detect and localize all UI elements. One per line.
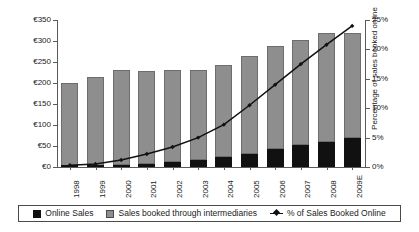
x-axis-line	[57, 167, 366, 168]
line-marker	[93, 162, 97, 166]
x-axis-tick-label: 2004	[227, 180, 235, 198]
x-axis-tick	[121, 167, 122, 170]
line-series-layer	[57, 20, 365, 167]
x-axis-tick	[173, 167, 174, 170]
y-axis-right-tick	[366, 49, 370, 50]
line-marker	[170, 145, 174, 149]
y-axis-left-tick-label: €150	[0, 100, 51, 108]
y-axis-right-tick	[366, 79, 370, 80]
y-axis-right-tick	[366, 167, 370, 168]
legend-label-percent-online: % of Sales Booked Online	[287, 209, 386, 218]
x-axis-tick-label: 2002	[176, 180, 184, 198]
x-axis-tick-label: 1999	[99, 180, 107, 198]
chart-legend: Online Sales Sales booked through interm…	[18, 205, 401, 222]
line-marker	[119, 158, 123, 162]
legend-item-intermediaries: Sales booked through intermediaries	[106, 209, 256, 218]
x-axis-tick	[352, 167, 353, 170]
x-axis-tick	[275, 167, 276, 170]
x-axis-labels: 1998199920002001200220032004200520062007…	[57, 170, 365, 200]
gray-square-swatch-icon	[106, 210, 114, 218]
legend-item-online-sales: Online Sales	[33, 209, 93, 218]
x-axis-tick	[147, 167, 148, 170]
x-axis-tick-label: 2000	[125, 180, 133, 198]
y-axis-right-tick	[366, 20, 370, 21]
x-axis-tick	[96, 167, 97, 170]
y-axis-left-tick-label: €300	[0, 37, 51, 45]
percent-online-line	[57, 20, 365, 167]
y-axis-right-tick	[366, 108, 370, 109]
x-axis-tick-label: 2003	[202, 180, 210, 198]
y-axis-right-tick	[366, 138, 370, 139]
x-axis-tick	[301, 167, 302, 170]
y-axis-right-tick-label: 15%	[372, 75, 388, 83]
line-marker-swatch-icon	[270, 209, 283, 218]
x-axis-tick	[224, 167, 225, 170]
y-axis-left-tick-label: €200	[0, 79, 51, 87]
x-axis-tick-label: 2006	[279, 180, 287, 198]
x-axis-tick-label: 2009E	[356, 175, 364, 198]
x-axis-tick-label: 2001	[150, 180, 158, 198]
line-path	[70, 26, 352, 165]
x-axis-tick	[250, 167, 251, 170]
y-axis-right-tick-label: 25%	[372, 16, 388, 24]
y-axis-left-tick-label: €250	[0, 58, 51, 66]
y-axis-left-tick-label: €350	[0, 16, 51, 24]
x-axis-tick-label: 2005	[253, 180, 261, 198]
y-axis-left-tick-label: €0	[0, 163, 51, 171]
y-axis-right-tick-label: 20%	[372, 45, 388, 53]
x-axis-tick	[327, 167, 328, 170]
x-axis-tick-label: 1998	[73, 180, 81, 198]
black-square-swatch-icon	[33, 210, 41, 218]
legend-label-online-sales: Online Sales	[45, 209, 93, 218]
y-axis-left-tick	[53, 167, 57, 168]
x-axis-tick-label: 2008	[330, 180, 338, 198]
y-axis-right-line	[365, 20, 366, 168]
y-axis-left-tick-label: €100	[0, 121, 51, 129]
x-axis-tick-label: 2007	[304, 180, 312, 198]
x-axis-tick	[198, 167, 199, 170]
y-axis-right-tick-label: 5%	[372, 134, 384, 142]
x-axis-tick	[70, 167, 71, 170]
chart-container: Billions Percentage of sales booked onli…	[0, 0, 419, 232]
legend-label-intermediaries: Sales booked through intermediaries	[118, 209, 256, 218]
legend-item-percent-online: % of Sales Booked Online	[270, 209, 386, 218]
y-axis-left-tick-label: €50	[0, 142, 51, 150]
y-axis-right-tick-label: 10%	[372, 104, 388, 112]
y-axis-right-tick-label: 0%	[372, 163, 384, 171]
line-marker	[145, 152, 149, 156]
